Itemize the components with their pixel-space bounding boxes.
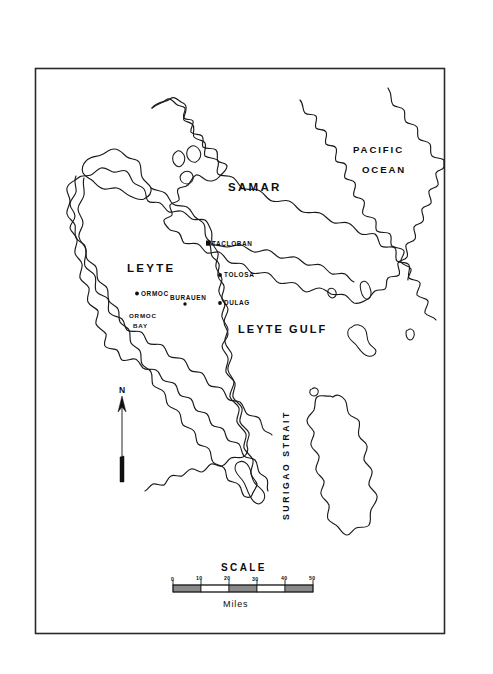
city-label-ormoc: ORMOC xyxy=(141,290,169,297)
water-label-surigao-strait: SURIGAO STRAIT xyxy=(281,410,291,520)
leyte-island-coastline xyxy=(67,168,257,498)
leyte-main-body xyxy=(78,178,272,435)
city-label-dulag: DULAG xyxy=(224,299,250,306)
scale-segment-2 xyxy=(201,585,229,592)
scale-unit-label: Miles xyxy=(223,599,249,609)
scale-bar-group: SCALE 0 10 20 30 40 50 Miles xyxy=(171,562,315,609)
scale-title: SCALE xyxy=(221,562,267,573)
north-arrow: N xyxy=(118,385,126,482)
city-marker-tolosa xyxy=(218,273,222,277)
scale-segment-5 xyxy=(285,585,313,592)
ocean-label-pacific-line1: PACIFIC xyxy=(353,144,404,155)
city-label-tolosa: TOLOSA xyxy=(224,271,254,278)
dinagat-island xyxy=(307,395,377,535)
scale-segment-1 xyxy=(173,585,201,592)
map-canvas: LEYTE SAMAR PACIFIC OCEAN LEYTE GULF SUR… xyxy=(0,0,493,674)
water-label-ormoc-bay-line1: ORMOC xyxy=(129,312,157,319)
scale-tick-50: 50 xyxy=(309,575,315,581)
samar-outline xyxy=(152,98,436,320)
map-page: LEYTE SAMAR PACIFIC OCEAN LEYTE GULF SUR… xyxy=(0,0,493,674)
north-arrow-tail xyxy=(120,456,124,482)
city-label-burauen: BURAUEN xyxy=(170,294,207,301)
samar-island-coastline xyxy=(152,88,444,304)
small-island-north-1 xyxy=(173,151,185,167)
city-marker-dulag xyxy=(218,301,222,305)
suluan-island xyxy=(406,329,414,340)
north-arrow-label: N xyxy=(119,385,125,395)
city-marker-burauen xyxy=(183,302,186,305)
homonhon-island xyxy=(348,325,376,356)
small-island-north-3 xyxy=(180,171,193,184)
scale-segment-3 xyxy=(229,585,257,592)
samar-east-coast xyxy=(300,100,411,280)
city-label-tacloban: TACLOBAN xyxy=(212,240,253,247)
dinagat-north-islet xyxy=(310,388,319,396)
city-marker-tacloban xyxy=(206,241,211,246)
city-marker-ormoc xyxy=(135,292,139,296)
leyte-gulf-islet-2 xyxy=(360,281,371,299)
scale-segment-4 xyxy=(257,585,285,592)
small-island-north-2 xyxy=(187,146,201,162)
water-label-ormoc-bay-line2: BAY xyxy=(133,322,148,329)
region-label-samar: SAMAR xyxy=(228,181,282,193)
leyte-southern-lobe xyxy=(145,446,248,491)
water-label-leyte-gulf: LEYTE GULF xyxy=(238,323,327,335)
ocean-label-pacific-line2: OCEAN xyxy=(362,164,406,175)
region-label-leyte: LEYTE xyxy=(127,262,176,274)
scale-tick-40: 40 xyxy=(281,575,287,581)
